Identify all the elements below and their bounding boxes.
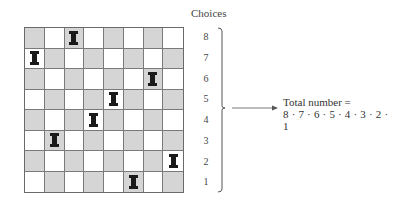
choice-count: 7 — [201, 52, 211, 63]
choice-count: 5 — [201, 93, 211, 104]
rook-icon — [109, 92, 118, 106]
board-square — [124, 69, 144, 90]
board-square — [65, 49, 85, 70]
board-square — [25, 49, 45, 70]
board-square — [25, 28, 45, 49]
board-square — [104, 69, 124, 90]
board-square — [45, 69, 65, 90]
board-square — [84, 172, 104, 193]
board-square — [65, 28, 85, 49]
board-square — [144, 28, 164, 49]
board-square — [124, 151, 144, 172]
arrow-right-icon — [226, 102, 282, 114]
board-square — [124, 110, 144, 131]
board-square — [65, 90, 85, 111]
board-square — [104, 28, 124, 49]
board-square — [163, 90, 183, 111]
board-square — [124, 28, 144, 49]
board-square — [65, 172, 85, 193]
board-square — [45, 110, 65, 131]
board-square — [25, 131, 45, 152]
rook-icon — [69, 31, 78, 45]
choices-label: Choices — [191, 7, 226, 19]
choice-count: 1 — [201, 176, 211, 187]
board-square — [45, 28, 65, 49]
total-number-label: Total number = — [283, 96, 351, 108]
board-square — [84, 131, 104, 152]
board-square — [25, 69, 45, 90]
board-square — [144, 172, 164, 193]
rook-icon — [89, 113, 98, 127]
board-square — [124, 49, 144, 70]
board-square — [84, 28, 104, 49]
board-square — [163, 151, 183, 172]
rook-icon — [30, 51, 39, 65]
board-square — [104, 131, 124, 152]
board-square — [45, 49, 65, 70]
board-square — [144, 110, 164, 131]
board-square — [124, 90, 144, 111]
board-square — [84, 151, 104, 172]
board-square — [124, 131, 144, 152]
choice-count: 2 — [201, 156, 211, 167]
board-square — [65, 110, 85, 131]
choice-count: 4 — [201, 114, 211, 125]
board-square — [104, 151, 124, 172]
board-square — [65, 151, 85, 172]
board-square — [104, 90, 124, 111]
board-square — [163, 69, 183, 90]
board-square — [124, 172, 144, 193]
board-square — [104, 49, 124, 70]
board-square — [84, 90, 104, 111]
rook-icon — [169, 154, 178, 168]
board-square — [25, 110, 45, 131]
choice-count: 3 — [201, 135, 211, 146]
board-square — [144, 69, 164, 90]
board-square — [163, 172, 183, 193]
rook-icon — [129, 175, 138, 189]
board-square — [25, 90, 45, 111]
choice-count: 8 — [201, 31, 211, 42]
board-square — [45, 131, 65, 152]
board-square — [163, 49, 183, 70]
choice-count: 6 — [201, 73, 211, 84]
board-square — [163, 28, 183, 49]
board-square — [25, 151, 45, 172]
board-square — [104, 110, 124, 131]
board-square — [45, 151, 65, 172]
board-square — [104, 172, 124, 193]
board-square — [45, 172, 65, 193]
board-square — [163, 110, 183, 131]
board-square — [144, 49, 164, 70]
board-square — [25, 172, 45, 193]
board-square — [144, 131, 164, 152]
board-square — [163, 131, 183, 152]
board-square — [84, 49, 104, 70]
board-square — [65, 69, 85, 90]
board-square — [144, 90, 164, 111]
board-square — [45, 90, 65, 111]
board-square — [65, 131, 85, 152]
rook-icon — [148, 72, 157, 86]
rook-icon — [50, 133, 59, 147]
board-square — [84, 110, 104, 131]
total-number-formula: 8 · 7 · 6 · 5 · 4 · 3 · 2 · 1 — [283, 108, 396, 132]
chessboard — [24, 27, 184, 193]
board-square — [84, 69, 104, 90]
board-square — [144, 151, 164, 172]
